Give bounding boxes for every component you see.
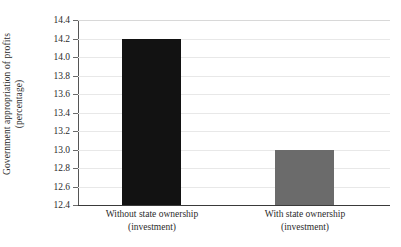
y-axis-tick-label: 13.8 — [53, 71, 70, 81]
y-axis-tick-label: 14.2 — [53, 34, 70, 44]
y-axis-tick-mark — [73, 94, 78, 95]
bar-0 — [122, 39, 181, 205]
y-axis-tick-mark — [73, 187, 78, 188]
y-axis-tick-label: 13.2 — [53, 126, 70, 136]
x-axis-category-labels: Without state ownership (investment) Wit… — [78, 208, 390, 242]
y-axis-tick-labels: 14.414.214.013.813.613.413.213.012.812.6… — [28, 14, 74, 212]
y-axis-tick-label: 12.6 — [53, 182, 70, 192]
y-axis-tick-mark — [73, 113, 78, 114]
bar-chart: Government appropriation of profits (per… — [0, 0, 401, 247]
x-axis-category-0-sub: (investment) — [72, 221, 232, 234]
y-axis-tick-mark — [73, 168, 78, 169]
y-axis-title: Government appropriation of profits (per… — [0, 0, 26, 207]
y-axis-tick-mark — [73, 39, 78, 40]
x-axis-category-1-sub: (investment) — [230, 221, 380, 234]
y-axis-tick-label: 13.0 — [53, 145, 70, 155]
x-axis-category-0: Without state ownership (investment) — [72, 208, 232, 234]
plot-area — [78, 20, 390, 205]
y-axis-tick-label: 13.6 — [53, 89, 70, 99]
y-axis-tick-mark — [73, 150, 78, 151]
y-axis-tick-label: 12.8 — [53, 163, 70, 173]
y-axis-tick-mark — [73, 57, 78, 58]
y-axis-tick-label: 12.4 — [53, 200, 70, 210]
y-axis-tick-label: 14.4 — [53, 15, 70, 25]
y-axis-tick-mark — [73, 76, 78, 77]
x-axis-category-1: With state ownership (investment) — [230, 208, 380, 234]
y-axis-tick-mark — [73, 20, 78, 21]
y-axis-tick-label: 13.4 — [53, 108, 70, 118]
y-axis-tick-label: 14.0 — [53, 52, 70, 62]
x-axis-line — [78, 205, 390, 206]
y-axis-title-line-2: (percentage) — [13, 32, 25, 174]
gridline — [78, 20, 390, 21]
x-axis-category-0-main: Without state ownership — [106, 209, 199, 219]
y-axis-tick-mark — [73, 131, 78, 132]
bar-1 — [275, 150, 334, 206]
y-axis-tick-mark — [73, 205, 78, 206]
x-axis-category-1-main: With state ownership — [265, 209, 345, 219]
y-axis-title-line-1: Government appropriation of profits — [2, 32, 12, 174]
